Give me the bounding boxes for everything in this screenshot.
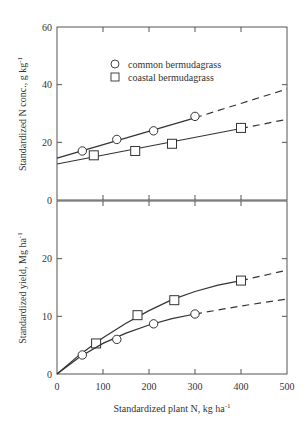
data-point-square xyxy=(237,276,246,285)
fit-line-dashed xyxy=(195,299,287,314)
y-tick-label: 20 xyxy=(42,253,52,264)
fit-line-dashed xyxy=(195,89,287,118)
data-point-circle xyxy=(149,320,157,328)
y-tick-label: 10 xyxy=(42,311,52,322)
x-tick-label: 300 xyxy=(188,381,203,392)
x-tick-label: 400 xyxy=(234,381,249,392)
data-point-square xyxy=(131,146,140,155)
data-point-square xyxy=(89,151,98,160)
y-tick-label: 40 xyxy=(42,79,52,90)
legend-circle-marker-icon xyxy=(111,60,119,68)
fit-line-solid xyxy=(57,281,241,374)
data-point-circle xyxy=(191,112,199,120)
fit-line-dashed xyxy=(241,119,287,128)
data-point-circle xyxy=(191,310,199,318)
data-point-circle xyxy=(78,147,86,155)
data-point-square xyxy=(168,139,177,148)
y-tick-label: 60 xyxy=(42,22,52,33)
x-tick-label: 0 xyxy=(55,381,60,392)
top-panel-nconc: 0204060 xyxy=(42,22,287,206)
x-tick-label: 500 xyxy=(280,381,295,392)
fit-line-solid xyxy=(57,118,195,158)
data-point-circle xyxy=(113,335,121,343)
legend-label-common: common bermudagrass xyxy=(128,59,221,70)
chart-figure: 0204060 010020030040050001020 Standardiz… xyxy=(0,0,308,433)
data-point-circle xyxy=(149,127,157,135)
y-tick-label: 20 xyxy=(42,137,52,148)
data-point-square xyxy=(237,123,246,132)
bottom-panel-yield: 010020030040050001020 xyxy=(42,201,295,392)
fit-line-solid xyxy=(57,129,241,165)
top-y-axis-label: Standardized N conc., g kg-1 xyxy=(16,56,28,171)
legend-square-marker-icon xyxy=(111,73,119,81)
x-tick-label: 200 xyxy=(142,381,157,392)
y-tick-label: 0 xyxy=(47,369,52,380)
data-point-square xyxy=(92,339,101,348)
y-tick-label: 0 xyxy=(47,195,52,206)
x-tick-label: 100 xyxy=(96,381,111,392)
plot-frame xyxy=(57,27,287,200)
legend: common bermudagrass coastal bermudagrass xyxy=(111,59,221,83)
data-point-circle xyxy=(78,351,86,359)
data-point-circle xyxy=(113,135,121,143)
legend-label-coastal: coastal bermudagrass xyxy=(128,72,214,83)
data-point-square xyxy=(170,296,179,305)
data-point-square xyxy=(133,311,142,320)
bottom-y-axis-label: Standardized yield, Mg ha-1 xyxy=(16,232,28,344)
x-axis-label: Standardized plant N, kg ha-1 xyxy=(113,402,231,414)
fit-line-dashed xyxy=(241,270,287,280)
